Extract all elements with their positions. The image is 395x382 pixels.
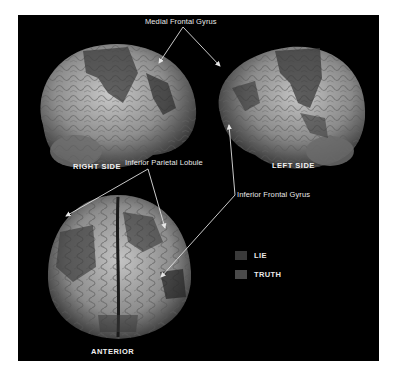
annotation-inferior-frontal-gyrus: Inferior Frontal Gyrus (237, 190, 310, 199)
legend-swatch-truth (235, 270, 247, 279)
legend-swatch-lie (235, 251, 247, 260)
annotation-inferior-parietal-lobule: Inferior Parietal Lobule (125, 158, 203, 167)
annotation-medial-frontal-gyrus: Medial Frontal Gyrus (145, 17, 217, 26)
view-label-left-side: LEFT SIDE (272, 161, 315, 170)
legend-label-lie: LIE (254, 251, 267, 260)
view-label-right-side: RIGHT SIDE (73, 162, 121, 171)
legend-item-lie: LIE (235, 251, 267, 260)
legend-label-truth: TRUTH (254, 270, 281, 279)
annotation-arrows (18, 15, 379, 361)
view-label-anterior: ANTERIOR (91, 347, 134, 356)
figure-panel: Medial Frontal Gyrus Inferior Parietal L… (18, 15, 379, 361)
legend-item-truth: TRUTH (235, 270, 281, 279)
